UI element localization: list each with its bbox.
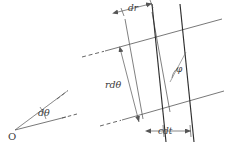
ray-line-3-heavy [152,4,166,142]
ray-line-1 [125,19,143,119]
inset-lower-ray [15,117,66,130]
phi-label: φ [176,64,183,74]
inset-angle-label: dθ [38,107,50,118]
inset-angle-group: O dθ [8,91,77,143]
geometry-diagram: O dθ dr [0,0,228,144]
rdtheta-dimension-arrow [121,52,139,122]
dr-tick-left [121,8,124,16]
cdt-tick-right [190,125,191,137]
inset-vertex-label: O [8,131,16,142]
cdt-label: cdt [158,126,173,136]
rdtheta-label: rdθ [105,79,122,90]
figure-container: O dθ dr [0,0,228,144]
inset-lower-ray-dashed-tip [62,114,77,118]
dr-label: dr [128,3,139,13]
main-figure-group: dr rdθ φ cdt [82,0,224,142]
upper-wavefront-dashed-extension [82,51,104,57]
lower-wavefront-dashed-extension [100,120,121,126]
upper-wavefront-line [105,19,222,51]
inset-upper-ray-dashed-tip [57,91,68,100]
